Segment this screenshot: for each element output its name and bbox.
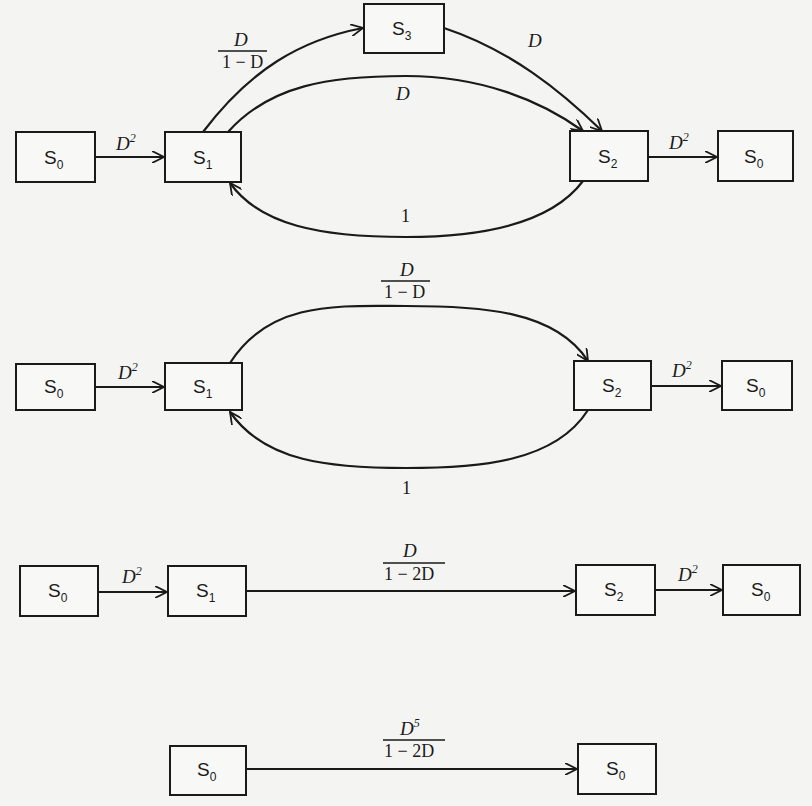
gain-denominator: 1 − D bbox=[222, 52, 263, 72]
gain-label: D2 bbox=[121, 564, 142, 587]
node-s0-start: S0 bbox=[16, 132, 95, 182]
gain-label: D2 bbox=[117, 360, 138, 383]
node-s0-end: S0 bbox=[722, 361, 792, 410]
gain-label: 1 bbox=[402, 478, 411, 498]
edge-s1-s2 bbox=[230, 306, 588, 363]
edge-s3-s2 bbox=[444, 28, 602, 131]
node-s0-start: S0 bbox=[16, 364, 95, 410]
diagram-step2: S0 S1 S2 S0 D2 D 1 − D 1 D2 bbox=[16, 259, 792, 498]
node-s0-end: S0 bbox=[578, 744, 656, 794]
gain-denominator: 1 − 2D bbox=[384, 564, 434, 584]
gain-numerator: D5 bbox=[399, 716, 420, 739]
diagram-step3: S0 S1 S2 S0 D2 D 1 − 2D D2 bbox=[20, 540, 800, 616]
gain-denominator: 1 − 2D bbox=[384, 741, 434, 761]
edge-s2-s1-feedback bbox=[230, 410, 588, 468]
node-s2: S2 bbox=[570, 131, 648, 181]
signal-flow-diagram-canvas: S0 S1 S3 S2 S0 D2 D 1 − D D D 1 D2 bbox=[0, 0, 812, 806]
gain-label: D2 bbox=[668, 130, 689, 153]
node-s0-end: S0 bbox=[718, 131, 793, 181]
node-s2: S2 bbox=[574, 361, 651, 410]
gain-label: D2 bbox=[677, 562, 698, 585]
node-s3: S3 bbox=[364, 4, 444, 53]
node-s0-start: S0 bbox=[20, 566, 98, 616]
node-s0-start: S0 bbox=[170, 746, 246, 795]
gain-denominator: 1 − D bbox=[384, 282, 425, 302]
gain-label: D bbox=[395, 83, 410, 104]
diagram-step1: S0 S1 S3 S2 S0 D2 D 1 − D D D 1 D2 bbox=[16, 4, 793, 237]
node-s2: S2 bbox=[576, 565, 655, 615]
diagram-step4: S0 S0 D5 1 − 2D bbox=[170, 716, 656, 795]
node-s1: S1 bbox=[168, 566, 246, 616]
node-s0-end: S0 bbox=[723, 565, 800, 615]
node-s1: S1 bbox=[165, 363, 242, 410]
node-s1: S1 bbox=[165, 132, 241, 182]
gain-numerator: D bbox=[233, 29, 248, 50]
gain-numerator: D bbox=[402, 540, 417, 561]
gain-label: D2 bbox=[115, 131, 136, 154]
gain-label: D2 bbox=[671, 358, 692, 381]
gain-numerator: D bbox=[399, 259, 414, 280]
gain-label: 1 bbox=[401, 206, 410, 226]
gain-label: D bbox=[527, 30, 542, 51]
